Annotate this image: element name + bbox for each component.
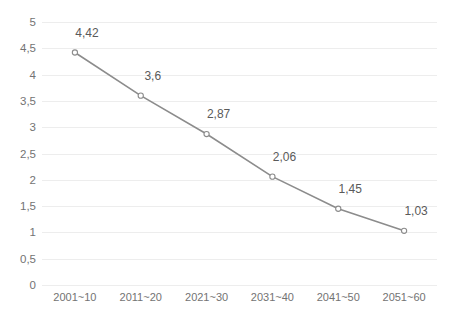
data-point-label: 1,03 (404, 204, 427, 218)
data-point-marker (401, 228, 406, 233)
x-axis-tick-label: 2031~40 (251, 291, 294, 303)
series-markers (72, 50, 406, 234)
data-point-label: 2,87 (207, 107, 230, 121)
data-point-label: 3,6 (144, 69, 161, 83)
x-axis-tick-label: 2051~60 (383, 291, 426, 303)
data-point-marker (72, 50, 77, 55)
data-point-label: 1,45 (339, 182, 362, 196)
x-axis-tick-label: 2021~30 (185, 291, 228, 303)
data-point-label: 2,06 (273, 150, 296, 164)
data-point-marker (138, 93, 143, 98)
data-point-marker (204, 131, 209, 136)
data-point-marker (336, 206, 341, 211)
line-chart: 54,543,532,521,510,50 2001~102011~202021… (0, 0, 450, 320)
x-axis-tick-label: 2011~20 (120, 291, 162, 303)
data-point-label: 4,42 (75, 26, 98, 40)
data-point-marker (270, 174, 275, 179)
series-polyline (75, 53, 404, 231)
series-line-layer (0, 0, 450, 320)
x-axis-tick-label: 2041~50 (317, 291, 360, 303)
x-axis-tick-label: 2001~10 (53, 291, 96, 303)
